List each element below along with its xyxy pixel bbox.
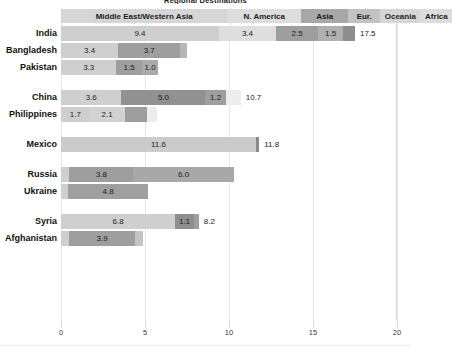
legend-item[interactable]: Africa (420, 9, 452, 23)
axis-tick (397, 321, 398, 328)
bar-segment[interactable] (180, 43, 187, 58)
row-total: 17.5 (360, 26, 376, 41)
axis-tick-label: 15 (309, 328, 317, 337)
chart-title: Regional Destinations (0, 0, 411, 4)
axis-tick-label: 10 (225, 328, 233, 337)
axis-tick (145, 321, 146, 328)
bar-segment[interactable]: 9.4 (61, 26, 219, 41)
bar-segment[interactable]: 3.3 (61, 60, 116, 75)
axis-tick-label: 5 (143, 328, 147, 337)
bar-row: Philippines1.72.1 (0, 107, 411, 122)
bar-track: 9.43.42.51.5 (61, 26, 355, 41)
bar-segment[interactable] (125, 107, 147, 122)
bar-segment[interactable]: 1.5 (318, 26, 343, 41)
bar-row: Pakistan3.31.51.0 (0, 60, 411, 75)
bar-segment[interactable] (147, 107, 157, 122)
bar-segment[interactable]: 1.0 (142, 60, 159, 75)
legend-item[interactable]: Asia (301, 9, 348, 23)
axis-tick-label: 0 (59, 328, 63, 337)
bar-segment[interactable] (135, 231, 143, 246)
bar-segment[interactable]: 6.0 (133, 167, 234, 182)
bar-segment[interactable]: 3.9 (69, 231, 135, 246)
legend-item[interactable]: Middle East/Western Asia (61, 9, 227, 23)
group-spacer (0, 124, 411, 137)
bar-track: 6.81.1 (61, 214, 199, 229)
legend: Middle East/Western AsiaN. AmericaAsiaEu… (61, 9, 452, 23)
row-label: Mexico (0, 137, 57, 152)
x-axis: 05101520 (61, 321, 397, 341)
bar-track: 11.6 (61, 137, 259, 152)
bar-track: 3.31.51.0 (61, 60, 158, 75)
bar-track: 3.43.7 (61, 43, 187, 58)
bar-row: Ukraine4.8 (0, 184, 411, 199)
bar-segment[interactable] (61, 167, 69, 182)
group-spacer (0, 201, 411, 214)
bar-row: Afghanistan3.9 (0, 231, 411, 246)
bar-row: China3.65.01.210.7 (0, 90, 411, 105)
bar-segment[interactable]: 11.6 (61, 137, 256, 152)
bar-segment[interactable]: 1.7 (61, 107, 90, 122)
bar-segment[interactable]: 1.1 (175, 214, 193, 229)
bar-segment[interactable]: 3.7 (118, 43, 180, 58)
bar-track: 3.9 (61, 231, 143, 246)
bar-segment[interactable]: 5.0 (121, 90, 205, 105)
bar-row: Mexico11.611.8 (0, 137, 411, 152)
axis-tick (229, 321, 230, 328)
bar-track: 3.86.0 (61, 167, 234, 182)
bar-segment[interactable] (194, 214, 199, 229)
row-total: 10.7 (246, 90, 262, 105)
bar-track: 1.72.1 (61, 107, 157, 122)
bar-segment[interactable]: 6.8 (61, 214, 175, 229)
axis-tick-label: 20 (393, 328, 401, 337)
bar-segment[interactable]: 2.5 (276, 26, 318, 41)
bar-segment[interactable]: 3.6 (61, 90, 121, 105)
row-label: Ukraine (0, 184, 57, 199)
row-total: 11.8 (264, 137, 279, 152)
bar-row: India9.43.42.51.517.5 (0, 26, 411, 41)
bar-track: 3.65.01.2 (61, 90, 241, 105)
row-label: Russia (0, 167, 57, 182)
axis-tick (313, 321, 314, 328)
row-label: Bangladesh (0, 43, 57, 58)
bar-segment[interactable] (61, 231, 69, 246)
legend-item[interactable]: Oceania (380, 9, 420, 23)
bar-segment[interactable]: 3.4 (219, 26, 276, 41)
legend-item[interactable]: Eur. (348, 9, 380, 23)
row-label: India (0, 26, 57, 41)
bar-segment[interactable]: 3.8 (69, 167, 133, 182)
bar-segment[interactable] (226, 90, 241, 105)
bar-segment[interactable]: 2.1 (90, 107, 125, 122)
bar-segment[interactable] (61, 184, 68, 199)
bar-track: 4.8 (61, 184, 148, 199)
legend-item[interactable]: N. America (227, 9, 301, 23)
group-spacer (0, 77, 411, 90)
bar-row: Russia3.86.0 (0, 167, 411, 182)
bar-segment[interactable]: 1.5 (116, 60, 141, 75)
row-label: Pakistan (0, 60, 57, 75)
bar-row: Bangladesh3.43.7 (0, 43, 411, 58)
row-label: Afghanistan (0, 231, 57, 246)
row-label: Philippines (0, 107, 57, 122)
bar-rows: India9.43.42.51.517.5Bangladesh3.43.7Pak… (0, 26, 411, 248)
footer-rule (0, 345, 411, 346)
row-total: 8.2 (204, 214, 215, 229)
bar-segment[interactable] (256, 137, 259, 152)
group-spacer (0, 154, 411, 167)
bar-segment[interactable]: 3.4 (61, 43, 118, 58)
bar-segment[interactable] (343, 26, 355, 41)
row-label: Syria (0, 214, 57, 229)
bar-segment[interactable]: 4.8 (68, 184, 149, 199)
row-label: China (0, 90, 57, 105)
bar-segment[interactable]: 1.2 (205, 90, 225, 105)
axis-tick (61, 321, 62, 328)
bar-row: Syria6.81.18.2 (0, 214, 411, 229)
